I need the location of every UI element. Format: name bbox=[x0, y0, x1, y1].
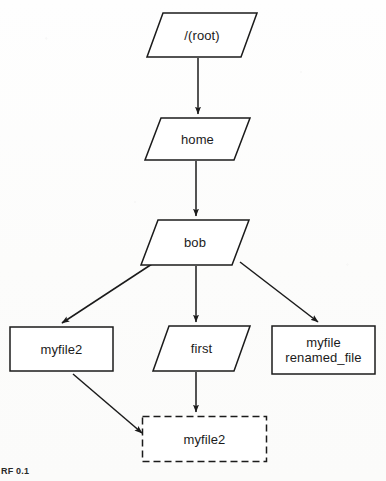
node-bob[interactable]: bob bbox=[140, 219, 250, 266]
node-myfile2-link-label: myfile2 bbox=[184, 432, 226, 447]
node-root[interactable]: /(root) bbox=[146, 12, 258, 58]
node-myfile2-left[interactable]: myfile2 bbox=[9, 326, 114, 372]
node-myfile[interactable]: myfile renamed_file bbox=[271, 325, 376, 375]
figure-canvas: /(root) home bob myfile2 first myfile re… bbox=[0, 0, 386, 481]
node-home-label: home bbox=[181, 132, 214, 147]
node-home[interactable]: home bbox=[144, 117, 251, 161]
node-myfile2-link[interactable]: myfile2 bbox=[141, 415, 268, 463]
node-root-label: /(root) bbox=[184, 28, 219, 43]
node-bob-label: bob bbox=[184, 235, 206, 250]
edge-bob-myfile2 bbox=[62, 264, 152, 323]
node-myfile-label: myfile renamed_file bbox=[285, 335, 361, 365]
edge-bob-myfile bbox=[240, 262, 318, 322]
edge-myfile2-myfile2link bbox=[73, 374, 142, 433]
node-first[interactable]: first bbox=[152, 325, 251, 372]
node-first-label: first bbox=[191, 341, 212, 356]
node-myfile2-left-label: myfile2 bbox=[41, 342, 83, 357]
figure-caption: RF 0.1 bbox=[1, 466, 29, 476]
